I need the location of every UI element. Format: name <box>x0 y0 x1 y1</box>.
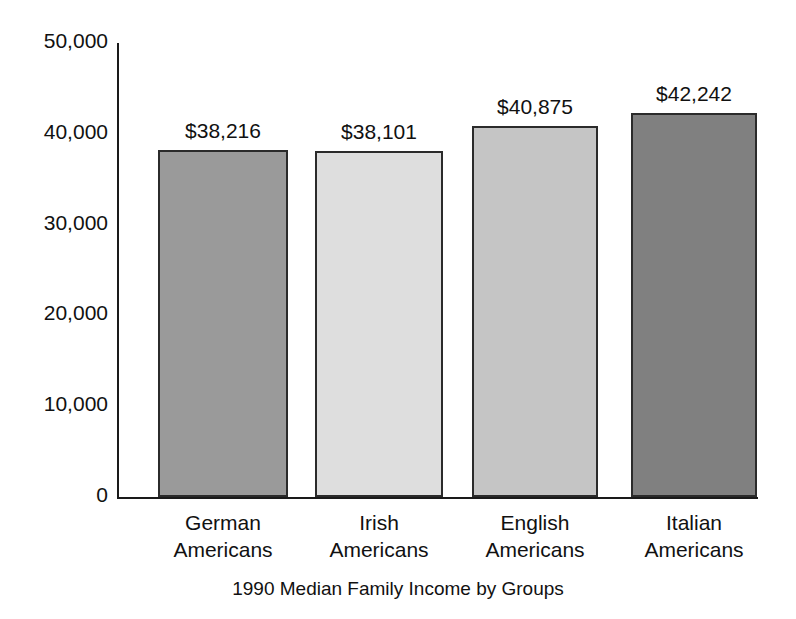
bar-value-label: $42,242 <box>601 82 787 106</box>
bar-value-label: $38,101 <box>285 120 473 144</box>
y-tick-label: 30,000 <box>44 211 108 235</box>
category-label-italian-americans: ItalianAmericans <box>591 509 796 563</box>
bar-chart-figure: 50,00040,00030,00020,00010,0000 $38,216$… <box>0 0 796 619</box>
category-label-line: Americans <box>591 536 796 563</box>
x-axis-line <box>117 497 758 499</box>
category-label-line: Italian <box>591 509 796 536</box>
bar-german-americans <box>158 150 288 497</box>
bar-english-americans <box>472 126 598 497</box>
y-tick-label: 50,000 <box>44 29 108 53</box>
y-tick-label: 20,000 <box>44 301 108 325</box>
y-tick-label: 40,000 <box>44 120 108 144</box>
chart-title: 1990 Median Family Income by Groups <box>0 578 796 600</box>
y-tick-label: 10,000 <box>44 392 108 416</box>
y-axis-line <box>117 43 119 499</box>
bar-irish-americans <box>315 151 443 497</box>
y-tick-label: 0 <box>96 483 108 507</box>
bar-italian-americans <box>631 113 757 497</box>
